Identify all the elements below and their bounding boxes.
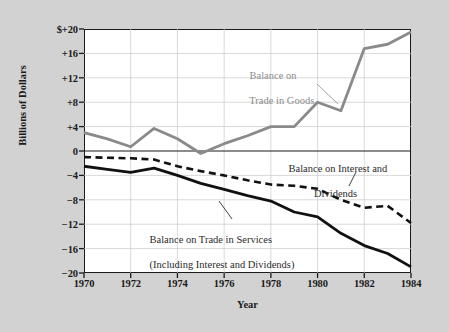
x-tick-label-0: 1970 bbox=[58, 278, 110, 289]
x-axis-title: Year bbox=[84, 299, 411, 310]
annotation-goods-line1: Balance on bbox=[250, 70, 297, 81]
y-tick-label-8: −12 bbox=[36, 219, 78, 230]
y-tick-label-5: 0 bbox=[36, 146, 78, 157]
annotation-interest-line2: Dividends bbox=[278, 188, 387, 201]
x-tick-label-7: 1984 bbox=[385, 278, 437, 289]
leader-line-0 bbox=[317, 84, 338, 104]
annotation-trade-in-goods: Balance on Trade in Goods bbox=[239, 57, 314, 120]
x-tick-label-6: 1982 bbox=[338, 278, 390, 289]
annotation-services-line2: (Including Interest and Dividends) bbox=[150, 259, 295, 270]
x-tick-label-5: 1980 bbox=[292, 278, 344, 289]
y-axis-title: Billions of Dollars bbox=[17, 46, 28, 166]
y-tick-label-10: −20 bbox=[36, 268, 78, 279]
y-tick-label-4: +4 bbox=[36, 121, 78, 132]
annotation-interest-and-dividends: Balance on Interest and Dividends bbox=[278, 150, 387, 225]
y-tick-label-1: +16 bbox=[36, 48, 78, 59]
y-tick-label-0: $+20 bbox=[36, 24, 78, 35]
y-tick-label-7: −8 bbox=[36, 194, 78, 205]
leader-line-2 bbox=[219, 201, 232, 219]
y-tick-label-2: +12 bbox=[36, 72, 78, 83]
annotation-services-line1: Balance on Trade in Services bbox=[150, 234, 272, 245]
y-tick-label-9: −16 bbox=[36, 243, 78, 254]
annotation-interest-line1: Balance on Interest and bbox=[289, 163, 388, 174]
y-tick-label-6: −4 bbox=[36, 170, 78, 181]
annotation-goods-line2: Trade in Goods bbox=[249, 95, 314, 106]
annotation-trade-in-services: Balance on Trade in Services (Including … bbox=[139, 221, 294, 284]
chart-figure: $+20+16+12+8+40−4−8−12−16−20 19701972197… bbox=[0, 0, 449, 332]
y-tick-label-3: +8 bbox=[36, 97, 78, 108]
